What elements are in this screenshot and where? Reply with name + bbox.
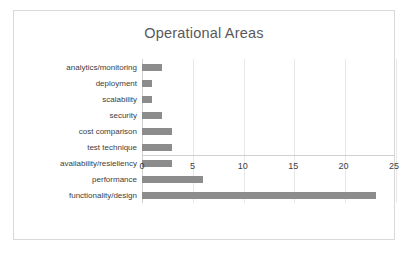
category-axis-labels: analytics/monitoringdeploymentscalabilit…: [14, 59, 142, 203]
x-tick-label: 10: [238, 161, 248, 171]
bar: [142, 80, 152, 87]
bar-row: [142, 123, 396, 139]
category-label: cost comparison: [14, 123, 142, 139]
x-tick-label: 25: [389, 161, 399, 171]
x-tick-label: 15: [288, 161, 298, 171]
gridline: [396, 59, 397, 203]
chart-title: Operational Areas: [14, 25, 394, 41]
category-label: analytics/monitoring: [14, 59, 142, 75]
category-label: test technique: [14, 139, 142, 155]
plot-area: [142, 59, 396, 203]
category-label: functionality/design: [14, 187, 142, 203]
category-label: availability/resieliency: [14, 155, 142, 171]
bar: [142, 192, 376, 199]
x-axis-line: [142, 155, 394, 156]
bar-row: [142, 59, 396, 75]
chart-frame: Operational Areas analytics/monitoringde…: [13, 10, 395, 240]
bar: [142, 144, 172, 151]
bar-row: [142, 75, 396, 91]
plot-wrapper: analytics/monitoringdeploymentscalabilit…: [14, 59, 396, 211]
bar: [142, 128, 172, 135]
category-label: deployment: [14, 75, 142, 91]
x-axis-tick-labels: 0510152025: [142, 157, 394, 175]
category-label: performance: [14, 171, 142, 187]
bar-row: [142, 91, 396, 107]
bar-row: [142, 107, 396, 123]
x-tick-label: 0: [139, 161, 144, 171]
category-label: scalability: [14, 91, 142, 107]
bar: [142, 112, 162, 119]
category-label: security: [14, 107, 142, 123]
bar: [142, 64, 162, 71]
bar-series: [142, 59, 396, 203]
x-tick-label: 20: [339, 161, 349, 171]
x-tick-label: 5: [190, 161, 195, 171]
bar: [142, 176, 203, 183]
bar: [142, 96, 152, 103]
bar-row: [142, 187, 396, 203]
bar-row: [142, 139, 396, 155]
